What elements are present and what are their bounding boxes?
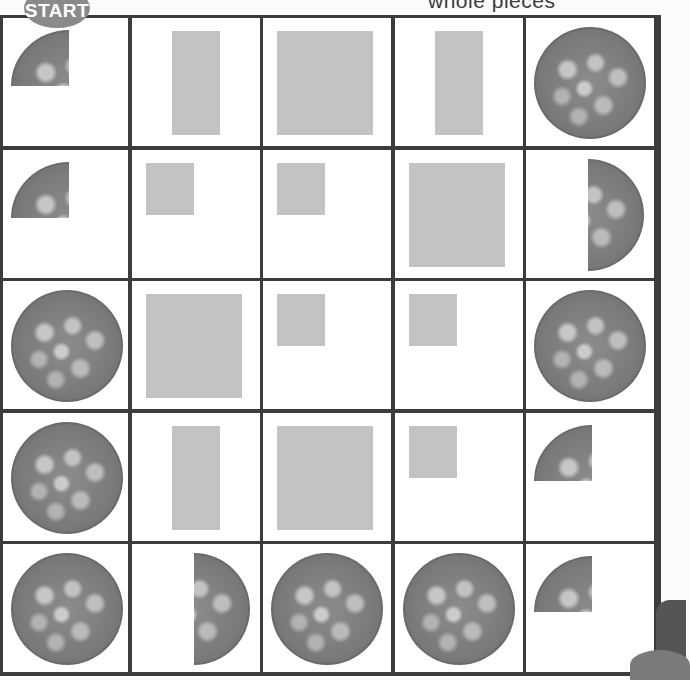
board-cell-r1-c3[interactable] [263, 18, 395, 150]
board-cell-r3-c4[interactable] [395, 281, 527, 413]
large-square-piece [146, 294, 242, 398]
whole-cracker-icon [403, 553, 515, 665]
board-cell-r2-c4[interactable] [395, 150, 527, 282]
tall-rectangle-piece [172, 426, 220, 530]
board-cell-r3-c3[interactable] [263, 281, 395, 413]
board-cell-r5-c4[interactable] [395, 544, 527, 676]
whole-cracker-icon [11, 422, 123, 534]
whole-cracker-icon [271, 553, 383, 665]
board-cell-r3-c2[interactable] [132, 281, 264, 413]
board-cell-r5-c1[interactable] [0, 544, 132, 676]
board-cell-r4-c5[interactable] [526, 413, 658, 545]
board-cell-r5-c3[interactable] [263, 544, 395, 676]
instruction-caption: whole pieces [428, 0, 555, 13]
tall-rectangle-piece [435, 31, 483, 135]
quarter-cracker-icon [534, 425, 592, 481]
quarter-cracker-icon [11, 162, 69, 218]
board-cell-r1-c5[interactable] [526, 18, 658, 150]
tall-rectangle-piece [172, 31, 220, 135]
quarter-cracker-icon [11, 30, 69, 86]
board-cell-r1-c2[interactable] [132, 18, 264, 150]
board-cell-r2-c5[interactable] [526, 150, 658, 282]
half-cracker-icon [194, 553, 252, 665]
half-cracker-icon [588, 159, 646, 271]
board-cell-r1-c4[interactable] [395, 18, 527, 150]
whole-cracker-icon [534, 27, 646, 139]
quarter-cracker-icon [534, 556, 592, 612]
small-square-piece [277, 294, 325, 346]
whole-cracker-icon [11, 290, 123, 402]
large-square-piece [409, 163, 505, 267]
game-board [0, 15, 661, 675]
board-cell-r2-c1[interactable] [0, 150, 132, 282]
board-cell-r5-c2[interactable] [132, 544, 264, 676]
board-cell-r2-c2[interactable] [132, 150, 264, 282]
board-cell-r4-c2[interactable] [132, 413, 264, 545]
whole-cracker-icon [11, 553, 123, 665]
board-cell-r3-c1[interactable] [0, 281, 132, 413]
mascot-arm [630, 650, 690, 680]
board-cell-r1-c1[interactable] [0, 18, 132, 150]
small-square-piece [409, 294, 457, 346]
large-square-piece [277, 31, 373, 135]
small-square-piece [277, 163, 325, 215]
board-cell-r3-c5[interactable] [526, 281, 658, 413]
board-cell-r4-c1[interactable] [0, 413, 132, 545]
large-square-piece [277, 426, 373, 530]
board-cell-r4-c4[interactable] [395, 413, 527, 545]
small-square-piece [146, 163, 194, 215]
whole-cracker-icon [534, 290, 646, 402]
small-square-piece [409, 426, 457, 478]
board-cell-r2-c3[interactable] [263, 150, 395, 282]
board-cell-r4-c3[interactable] [263, 413, 395, 545]
